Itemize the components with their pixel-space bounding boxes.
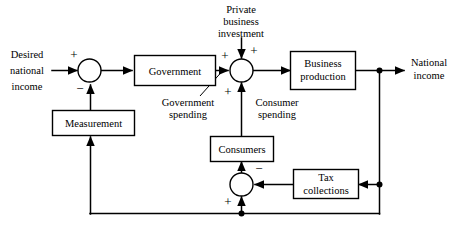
sign-sum2-top-plus: + bbox=[250, 43, 257, 58]
sign-sum2-bottom-plus: + bbox=[224, 84, 231, 99]
input-label-private-investment-line1: Private bbox=[226, 4, 256, 15]
annotation-consumer-spending-line2: spending bbox=[258, 109, 297, 120]
sign-sum3-right-minus: − bbox=[255, 161, 262, 176]
junction-dot-bottom-rail bbox=[239, 211, 245, 217]
input-label-desired-income-line1: Desired bbox=[11, 49, 44, 60]
annotation-government-spending-line1: Government bbox=[162, 97, 215, 108]
junction-dot-tax-branch bbox=[377, 182, 383, 188]
block-label-business-production-line1: Business bbox=[304, 58, 341, 69]
annotation-consumer-spending-line1: Consumer bbox=[255, 97, 299, 108]
block-label-tax-collections-line2: collections bbox=[303, 185, 349, 196]
sign-sum2-left-plus: + bbox=[221, 48, 228, 63]
sign-sum1-feedback-minus: − bbox=[76, 81, 83, 96]
block-diagram-figure: Government Measurement Business producti… bbox=[0, 0, 454, 232]
input-label-desired-income-line3: income bbox=[12, 81, 43, 92]
block-label-government: Government bbox=[149, 66, 202, 77]
summing-junction-1 bbox=[78, 59, 101, 82]
sign-sum3-bottom-plus: + bbox=[224, 194, 231, 209]
annotation-government-spending-line2: spending bbox=[169, 109, 208, 120]
summing-junction-3 bbox=[230, 173, 253, 196]
block-label-tax-collections-line1: Tax bbox=[318, 172, 334, 183]
junction-dot-output bbox=[377, 68, 383, 74]
input-label-private-investment-line2: business bbox=[223, 16, 259, 27]
input-label-private-investment-line3: investment bbox=[218, 28, 264, 39]
output-label-national-income-line1: National bbox=[411, 57, 447, 68]
input-label-desired-income-line2: national bbox=[10, 65, 44, 76]
diagram-canvas: Government Measurement Business producti… bbox=[0, 0, 454, 232]
block-label-measurement: Measurement bbox=[65, 118, 122, 129]
block-label-business-production-line2: production bbox=[300, 71, 346, 82]
sign-sum1-input-plus: + bbox=[70, 47, 77, 62]
output-label-national-income-line2: income bbox=[414, 70, 445, 81]
summing-junction-2 bbox=[230, 59, 253, 82]
block-label-consumers: Consumers bbox=[218, 144, 265, 155]
